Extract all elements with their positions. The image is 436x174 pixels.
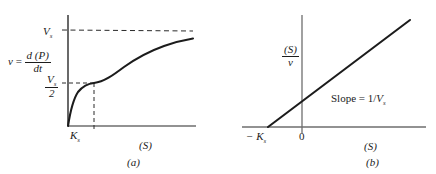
panel-a-half-vmax-numerator: Vs: [45, 74, 58, 88]
panel-b-slope-text: Slope = 1/: [331, 92, 376, 104]
panel-b-x-axis-label: (S): [364, 141, 377, 152]
panel-b-hanes-woolf-plot: (S) v Slope = 1/Vs − Ks 0 (S) (b): [218, 0, 436, 174]
panel-a-y-axis-label: v = d (P) dt: [8, 50, 51, 74]
panel-b-canvas: [218, 0, 436, 174]
enzyme-kinetics-figure: v = d (P) dt Vs Vs 2 Ks (S) (a): [0, 0, 436, 174]
panel-a-x-axis-label: (S): [139, 140, 152, 151]
panel-a-vmax-dashed-line: [62, 30, 193, 31]
panel-b-caption: (b): [366, 157, 379, 168]
panel-a-michaelis-menten-plot: v = d (P) dt Vs Vs 2 Ks (S) (a): [0, 0, 218, 174]
panel-b-y-label-numerator: (S): [282, 44, 299, 57]
panel-a-half-vmax-num-main: V: [47, 73, 54, 85]
panel-a-y-label-fraction: d (P) dt: [25, 50, 51, 74]
panel-a-y-label-numerator: d (P): [25, 50, 51, 63]
panel-a-y-label-v: v: [8, 55, 13, 67]
panel-a-half-vmax-fraction: Vs 2: [45, 74, 58, 100]
panel-b-y-axis-label: (S) v: [282, 44, 299, 68]
panel-b-slope-v-subscript: s: [383, 99, 386, 106]
panel-b-y-label-denominator: v: [282, 57, 299, 69]
panel-b-regression-line: [268, 20, 410, 127]
panel-b-neg-ks-main: − K: [246, 130, 264, 142]
panel-a-ks-label: Ks: [70, 130, 80, 144]
panel-a-saturation-curve: [68, 39, 193, 127]
panel-b-slope-annotation: Slope = 1/Vs: [331, 93, 386, 107]
panel-a-ks-subscript: s: [77, 136, 80, 143]
panel-a-half-vmax-num-subscript: s: [54, 80, 57, 87]
panel-a-y-label-equals: =: [16, 55, 22, 67]
panel-a-vmax-subscript: s: [50, 32, 53, 39]
panel-a-canvas: [0, 0, 218, 174]
panel-a-half-vmax-denominator: 2: [45, 88, 58, 100]
panel-b-x-intercept-label: − Ks: [246, 131, 266, 145]
panel-b-y-label-fraction: (S) v: [282, 44, 299, 68]
panel-a-vmax-label: Vs: [43, 26, 52, 40]
panel-a-caption: (a): [127, 157, 140, 168]
panel-b-neg-ks-subscript: s: [264, 137, 267, 144]
panel-a-half-vmax-label: Vs 2: [45, 74, 58, 100]
panel-a-vmax-main: V: [43, 25, 50, 37]
panel-b-origin-label: 0: [299, 131, 305, 142]
